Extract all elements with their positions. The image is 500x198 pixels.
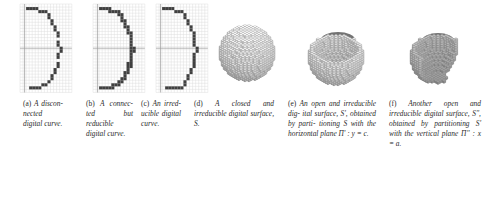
digital-curve-a-graphic xyxy=(0,0,80,95)
caption-f-text: Another open and irreducible digital sur… xyxy=(389,99,481,148)
voxel-sphere-open-horizontal-graphic xyxy=(290,0,382,95)
caption-c-label: (c) xyxy=(141,99,149,108)
caption-d: (d) A closed and irreducible digital sur… xyxy=(194,99,274,129)
caption-d-text: A closed and irreducible digital surface… xyxy=(194,99,274,128)
figure-row xyxy=(0,0,500,97)
caption-e: (e) An open and irreducible dig- ital su… xyxy=(288,99,376,139)
caption-b-label: (b) xyxy=(86,99,95,108)
panel-e-open-surface-horizontal xyxy=(290,0,382,95)
caption-a: (a) A discon- nected digital curve. xyxy=(23,99,63,129)
caption-b: (b) A connec- ted but reducible digital … xyxy=(86,99,133,139)
panel-b-reducible-curve xyxy=(75,0,155,95)
caption-d-label: (d) xyxy=(194,99,203,108)
caption-c: (c) An irred- ucible digital curve. xyxy=(141,99,181,129)
caption-e-label: (e) xyxy=(288,99,296,108)
panel-d-closed-surface xyxy=(202,0,292,95)
panel-f-open-surface-vertical xyxy=(390,0,488,95)
voxel-sphere-closed-graphic xyxy=(202,0,292,95)
caption-f-label: (f) xyxy=(389,99,396,108)
panel-a-disconnected-curve xyxy=(0,0,80,95)
caption-e-text: An open and irreducible dig- ital surfac… xyxy=(288,99,376,138)
digital-curve-b-graphic xyxy=(75,0,155,95)
caption-row: (a) A discon- nected digital curve. (b) … xyxy=(0,99,500,198)
voxel-sphere-open-vertical-graphic xyxy=(390,0,488,95)
caption-a-label: (a) xyxy=(23,99,31,108)
caption-f: (f) Another open and irreducible digital… xyxy=(389,99,481,149)
